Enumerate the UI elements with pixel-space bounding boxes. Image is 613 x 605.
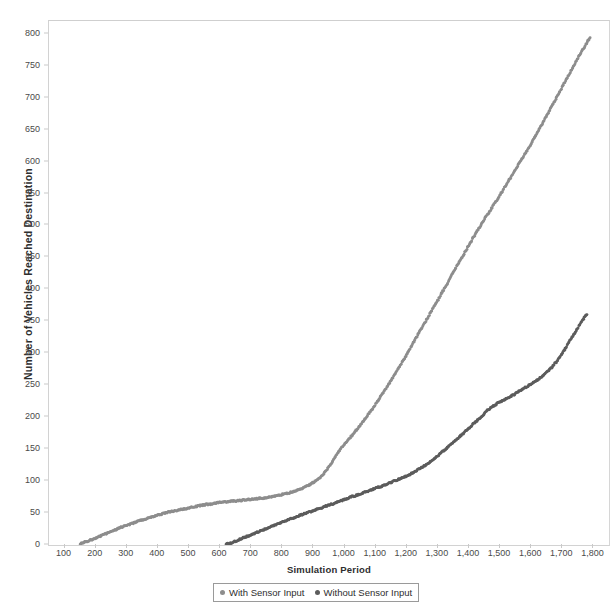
y-tick-label: 0 [35, 539, 40, 549]
x-tick-mark [530, 544, 531, 548]
x-tick-mark [64, 544, 65, 548]
x-axis-title: Simulation Period [48, 564, 610, 575]
x-tick-mark [437, 544, 438, 548]
x-tick-mark [312, 544, 313, 548]
x-tick-mark [406, 544, 407, 548]
x-tick-mark [499, 544, 500, 548]
x-tick-mark [561, 544, 562, 548]
y-axis-tick-labels: 0501001502002503003504004505005506006507… [0, 0, 44, 605]
x-tick-mark [126, 544, 127, 548]
y-tick-label: 100 [25, 475, 40, 485]
x-tick-mark [157, 544, 158, 548]
legend-item[interactable]: With Sensor Input [220, 588, 305, 598]
x-tick-mark [344, 544, 345, 548]
y-tick-label: 350 [25, 315, 40, 325]
series-with-sensor-input [79, 36, 592, 545]
y-tick-label: 400 [25, 283, 40, 293]
plot-svg [49, 21, 609, 545]
legend-marker-icon [220, 590, 225, 595]
x-tick-label: 1,000 [332, 548, 355, 558]
x-tick-label: 1,100 [363, 548, 386, 558]
x-tick-mark [188, 544, 189, 548]
y-tick-label: 750 [25, 60, 40, 70]
data-point [585, 313, 588, 316]
x-tick-label: 200 [87, 548, 102, 558]
y-tick-label: 200 [25, 411, 40, 421]
data-point [470, 240, 473, 243]
y-tick-label: 700 [25, 92, 40, 102]
legend-item[interactable]: Without Sensor Input [315, 588, 413, 598]
data-point [589, 36, 592, 39]
x-tick-mark [281, 544, 282, 548]
x-tick-label: 1,800 [581, 548, 604, 558]
x-tick-label: 900 [305, 548, 320, 558]
legend-marker-icon [315, 590, 320, 595]
data-point [463, 253, 466, 256]
plot-area [48, 20, 610, 546]
x-tick-label: 500 [180, 548, 195, 558]
x-tick-label: 700 [243, 548, 258, 558]
x-tick-mark [95, 544, 96, 548]
x-tick-mark [250, 544, 251, 548]
x-tick-label: 1,200 [395, 548, 418, 558]
legend-label: Without Sensor Input [324, 588, 413, 598]
x-tick-label: 400 [149, 548, 164, 558]
chart-legend: With Sensor InputWithout Sensor Input [213, 583, 419, 602]
x-tick-mark [375, 544, 376, 548]
x-tick-label: 1,600 [519, 548, 542, 558]
x-tick-mark [219, 544, 220, 548]
y-tick-label: 450 [25, 251, 40, 261]
chart-container: Number of Vehicles Reached Destination 0… [0, 0, 613, 605]
x-tick-mark [592, 544, 593, 548]
y-tick-label: 50 [30, 507, 40, 517]
x-tick-label: 100 [56, 548, 71, 558]
series-without-sensor-input [225, 313, 589, 545]
y-tick-label: 300 [25, 347, 40, 357]
y-tick-label: 600 [25, 156, 40, 166]
y-tick-label: 800 [25, 28, 40, 38]
x-tick-label: 1,500 [488, 548, 511, 558]
y-tick-label: 650 [25, 124, 40, 134]
x-tick-label: 1,400 [457, 548, 480, 558]
x-tick-label: 600 [212, 548, 227, 558]
x-tick-label: 300 [118, 548, 133, 558]
x-tick-label: 1,700 [550, 548, 573, 558]
legend-label: With Sensor Input [229, 588, 305, 598]
x-tick-label: 1,300 [426, 548, 449, 558]
y-tick-label: 500 [25, 219, 40, 229]
y-tick-label: 150 [25, 443, 40, 453]
x-axis-tick-labels: 1002003004005006007008009001,0001,1001,2… [48, 548, 610, 564]
x-tick-mark [468, 544, 469, 548]
y-tick-label: 550 [25, 188, 40, 198]
y-tick-label: 250 [25, 379, 40, 389]
x-tick-label: 800 [274, 548, 289, 558]
